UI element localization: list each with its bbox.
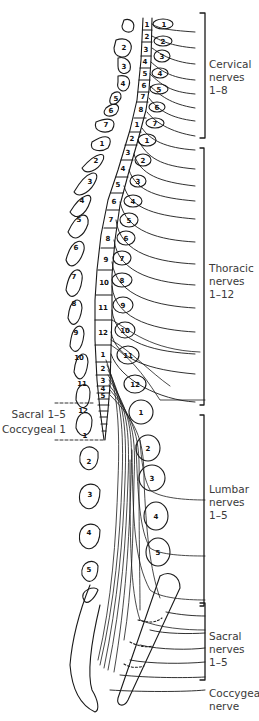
svg-text:3: 3 bbox=[101, 377, 106, 385]
coccygeal-1-left-label: Coccygeal 1 bbox=[0, 423, 66, 436]
svg-text:8: 8 bbox=[72, 300, 77, 308]
svg-text:4: 4 bbox=[80, 197, 85, 205]
svg-text:3: 3 bbox=[122, 63, 127, 71]
svg-text:5: 5 bbox=[101, 392, 106, 400]
svg-text:4: 4 bbox=[143, 58, 148, 66]
thoracic-bracket bbox=[200, 148, 204, 405]
svg-text:11: 11 bbox=[98, 304, 108, 312]
svg-text:7: 7 bbox=[153, 120, 158, 128]
svg-text:6: 6 bbox=[142, 82, 147, 90]
svg-text:7: 7 bbox=[104, 121, 109, 129]
svg-text:5: 5 bbox=[157, 86, 162, 94]
svg-text:6: 6 bbox=[155, 104, 160, 112]
svg-text:3: 3 bbox=[150, 475, 155, 483]
svg-text:4: 4 bbox=[154, 513, 159, 521]
svg-text:8: 8 bbox=[106, 235, 111, 243]
cervical-bracket bbox=[200, 13, 205, 138]
svg-text:5: 5 bbox=[156, 549, 161, 557]
svg-text:1: 1 bbox=[101, 351, 106, 359]
svg-text:3: 3 bbox=[136, 178, 141, 186]
svg-text:12: 12 bbox=[130, 381, 140, 389]
svg-text:2: 2 bbox=[161, 38, 166, 46]
svg-text:3: 3 bbox=[160, 53, 165, 61]
svg-text:8: 8 bbox=[120, 277, 125, 285]
svg-text:4: 4 bbox=[131, 198, 136, 206]
svg-text:5: 5 bbox=[114, 95, 119, 103]
svg-text:3: 3 bbox=[144, 46, 149, 54]
svg-text:5: 5 bbox=[77, 216, 82, 224]
svg-text:6: 6 bbox=[124, 235, 129, 243]
svg-text:9: 9 bbox=[104, 256, 109, 264]
svg-text:8: 8 bbox=[139, 106, 144, 114]
svg-text:12: 12 bbox=[78, 407, 88, 415]
svg-text:10: 10 bbox=[120, 327, 130, 335]
region-brackets bbox=[200, 13, 205, 680]
svg-text:1: 1 bbox=[145, 137, 150, 145]
svg-text:2: 2 bbox=[146, 445, 151, 453]
sacral-bracket bbox=[200, 603, 205, 680]
sacral-1-5-left-label: Sacral 1–5 bbox=[0, 408, 66, 421]
svg-text:1: 1 bbox=[100, 140, 105, 148]
svg-text:10: 10 bbox=[99, 279, 109, 287]
svg-text:12: 12 bbox=[98, 329, 108, 337]
svg-text:9: 9 bbox=[74, 329, 79, 337]
svg-text:5: 5 bbox=[127, 217, 132, 225]
spinal-nerve-diagram: 123 456 78 123 456 789 101112 123 45 234… bbox=[0, 0, 259, 721]
cervical-nerves-label: Cervical nerves 1–8 bbox=[209, 58, 251, 97]
svg-text:4: 4 bbox=[121, 165, 126, 173]
sacral-nerves-label: Sacral nerves 1–5 bbox=[209, 630, 245, 669]
svg-text:4: 4 bbox=[158, 70, 163, 78]
svg-text:5: 5 bbox=[143, 70, 148, 78]
coccygeal-nerve-label: Coccygeal nerve bbox=[209, 687, 259, 713]
svg-text:6: 6 bbox=[109, 107, 114, 115]
svg-text:4: 4 bbox=[87, 529, 92, 537]
svg-text:6: 6 bbox=[112, 198, 117, 206]
svg-text:7: 7 bbox=[72, 273, 77, 281]
svg-text:1: 1 bbox=[162, 21, 167, 29]
svg-text:10: 10 bbox=[74, 354, 84, 362]
cauda-equina bbox=[98, 320, 205, 672]
svg-text:1: 1 bbox=[83, 432, 88, 440]
svg-text:3: 3 bbox=[126, 149, 131, 157]
svg-text:7: 7 bbox=[109, 216, 114, 224]
svg-text:2: 2 bbox=[94, 157, 99, 165]
svg-text:1: 1 bbox=[139, 409, 144, 417]
svg-text:11: 11 bbox=[77, 380, 87, 388]
right-foramina bbox=[112, 19, 180, 705]
svg-text:2: 2 bbox=[145, 33, 150, 41]
svg-text:7: 7 bbox=[141, 93, 146, 101]
svg-text:5: 5 bbox=[87, 566, 92, 574]
svg-text:4: 4 bbox=[121, 80, 126, 88]
svg-text:1: 1 bbox=[145, 21, 150, 29]
svg-text:2: 2 bbox=[122, 44, 127, 52]
lumbar-bracket bbox=[200, 415, 204, 606]
thoracic-nerves-label: Thoracic nerves 1–12 bbox=[209, 262, 254, 301]
svg-text:3: 3 bbox=[88, 491, 93, 499]
svg-text:2: 2 bbox=[87, 458, 92, 466]
svg-text:2: 2 bbox=[141, 157, 146, 165]
svg-text:5: 5 bbox=[116, 181, 121, 189]
svg-text:2: 2 bbox=[130, 135, 135, 143]
svg-text:2: 2 bbox=[101, 365, 106, 373]
svg-text:3: 3 bbox=[88, 178, 93, 186]
svg-text:1: 1 bbox=[135, 121, 140, 129]
svg-text:11: 11 bbox=[123, 352, 133, 360]
svg-text:7: 7 bbox=[120, 255, 125, 263]
svg-text:6: 6 bbox=[74, 244, 79, 252]
lumbar-nerves-label: Lumbar nerves 1–5 bbox=[209, 483, 249, 522]
svg-text:9: 9 bbox=[121, 302, 126, 310]
